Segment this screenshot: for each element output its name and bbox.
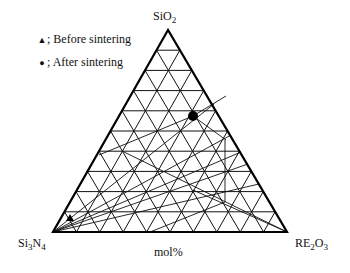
axis-label-mol-percent: mol% [154, 245, 183, 260]
vertex-label-sio2: SiO2 [153, 9, 176, 25]
legend-label: ; Before sintering [47, 32, 131, 46]
legend-after-sintering: ●; After sintering [37, 55, 123, 70]
legend-before-sintering: ▲; Before sintering [37, 32, 131, 47]
vertex-label-si3n4: Si3N4 [18, 236, 46, 252]
after-sintering-marker-icon [188, 111, 198, 121]
grid-line [76, 50, 179, 232]
before-sintering-marker-icon [66, 214, 74, 221]
legend-label: ; After sintering [47, 55, 123, 69]
circle-marker-icon: ● [37, 58, 47, 68]
vertex-label-re2o3: RE2O3 [295, 236, 328, 252]
grid-line [157, 50, 264, 232]
tie-line [193, 190, 287, 232]
triangle-marker-icon: ▲ [37, 35, 47, 45]
